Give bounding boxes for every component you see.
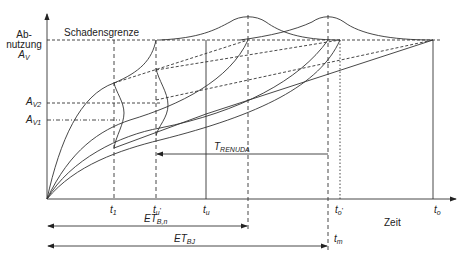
- tick-t1: t1: [110, 205, 117, 216]
- distribution-tu-prime: [156, 68, 168, 136]
- tick-tu: tu: [203, 205, 210, 216]
- damage-limit-label: Schadensgrenze: [64, 28, 139, 38]
- y-axis-label: Ab- nutzung AV: [4, 30, 44, 61]
- wear-curve-slow: [47, 40, 340, 199]
- wear-curve-medium: [47, 40, 328, 199]
- wear-line-long: [114, 40, 433, 148]
- distribution-t1: [114, 83, 124, 148]
- level-av1: AV1: [26, 115, 41, 126]
- tick-to: to: [434, 205, 441, 216]
- level-av2: AV2: [26, 97, 41, 108]
- wear-curve-medium-early: [47, 40, 248, 199]
- tick-tm: tm: [334, 234, 343, 245]
- label-et-bj: ETBJ: [174, 234, 195, 245]
- failure-distribution-1: [160, 17, 340, 40]
- label-et-bn: ETB,n: [144, 214, 167, 225]
- tick-to-prime: to': [335, 205, 343, 216]
- failure-distribution-2: [240, 17, 433, 40]
- x-axis-label: Zeit: [384, 218, 401, 228]
- wear-curve-fast: [47, 40, 156, 199]
- label-t-renuda: TRENUDA: [214, 142, 250, 153]
